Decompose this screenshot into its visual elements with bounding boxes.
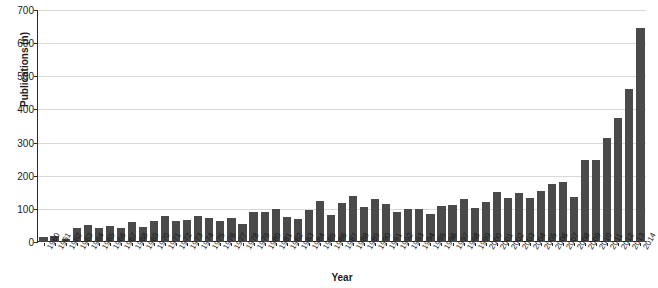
bar xyxy=(592,160,600,242)
y-tick-label: 700 xyxy=(0,6,34,16)
y-tick-label: 400 xyxy=(0,105,34,115)
y-tick-label: 300 xyxy=(0,139,34,149)
plot-area: 0100200300400500600700 xyxy=(38,10,646,242)
bar xyxy=(603,138,611,242)
y-tick-label: 500 xyxy=(0,72,34,82)
bar xyxy=(636,28,644,242)
bar xyxy=(614,118,622,242)
bars-group xyxy=(38,10,646,242)
x-axis-title: Year xyxy=(38,272,646,283)
y-axis-title: Publications (n) xyxy=(19,0,30,140)
bar xyxy=(581,160,589,242)
y-tick-label: 600 xyxy=(0,39,34,49)
bar xyxy=(39,237,47,242)
y-tick-label: 100 xyxy=(0,205,34,215)
y-tick-label: 200 xyxy=(0,172,34,182)
y-tick-label: 0 xyxy=(0,238,34,248)
bar xyxy=(625,89,633,242)
